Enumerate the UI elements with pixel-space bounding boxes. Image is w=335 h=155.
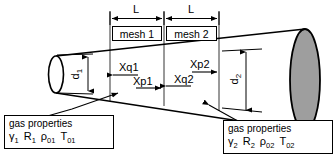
outlet-diameter-symbol: d — [228, 78, 240, 84]
length-label-right: L — [188, 4, 194, 15]
gamma-subscript-right: 2 — [234, 141, 238, 150]
inlet-diameter-subscript: 1 — [75, 69, 84, 73]
xp1-label: Xp1 — [133, 76, 153, 87]
gas-constant-symbol-right: R — [243, 135, 251, 147]
mesh-box-1[interactable]: mesh 1 — [112, 26, 162, 41]
gas-properties-title-left: gas properties — [9, 118, 109, 129]
length-dimension-lines — [110, 11, 219, 25]
outlet-diameter-subscript: 2 — [234, 74, 243, 78]
gas-properties-values-left: γ1R1ρ01T01 — [9, 130, 109, 147]
inlet-diameter-symbol: d — [69, 73, 81, 79]
xp2-label: Xp2 — [190, 59, 210, 70]
outlet-diameter-label: d2 — [229, 69, 243, 89]
density-subscript-right: 02 — [266, 141, 274, 150]
length-label-left: L — [133, 4, 139, 15]
density-subscript-left: 01 — [47, 136, 55, 145]
xq1-label: Xq1 — [119, 62, 139, 73]
inlet-diameter-label: d1 — [70, 65, 84, 83]
xq2-label: Xq2 — [174, 74, 194, 85]
gas-properties-box-left[interactable]: gas properties γ1R1ρ01T01 — [4, 115, 114, 149]
gas-properties-box-right[interactable]: gas properties γ2R2ρ02T02 — [223, 120, 333, 154]
gas-constant-subscript-left: 1 — [32, 136, 36, 145]
gas-properties-values-right: γ2R2ρ02T02 — [228, 135, 328, 152]
gas-constant-subscript-right: 2 — [251, 141, 255, 150]
duct-inlet-face — [49, 56, 64, 93]
temperature-subscript-right: 02 — [286, 141, 294, 150]
node-position-arrows — [113, 72, 217, 88]
gamma-subscript-left: 1 — [15, 136, 19, 145]
gas-constant-symbol-left: R — [24, 130, 32, 142]
duct-outlet-face — [290, 29, 320, 131]
mesh-box-2[interactable]: mesh 2 — [166, 26, 217, 41]
temperature-subscript-left: 01 — [67, 136, 75, 145]
diagram-canvas: L L mesh 1 mesh 2 Xq1 Xp1 Xp2 Xq2 d1 d2 … — [0, 0, 335, 155]
gas-properties-title-right: gas properties — [228, 123, 328, 134]
